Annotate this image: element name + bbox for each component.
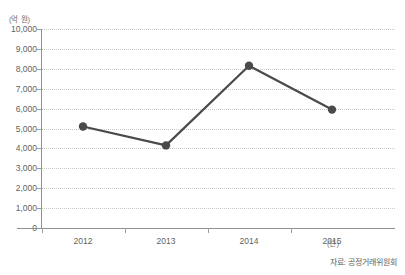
data-point-marker[interactable]: [162, 141, 170, 149]
y-axis-tick-label: 5,000: [0, 124, 37, 134]
x-axis-tick-label: 2013: [126, 236, 206, 246]
x-axis-tick-label: 2012: [43, 236, 123, 246]
series-polyline: [83, 66, 332, 146]
y-axis-tick-label: 2,000: [0, 183, 37, 193]
y-axis-tick-label: 1,000: [0, 203, 37, 213]
y-axis-tick-label: 4,000: [0, 143, 37, 153]
x-axis-tick: [208, 228, 209, 233]
y-axis-tick-label: 7,000: [0, 84, 37, 94]
y-axis-tick-label: 3,000: [0, 163, 37, 173]
series-line: [41, 29, 395, 228]
data-point-marker[interactable]: [328, 105, 336, 113]
x-axis-line: [17, 228, 395, 229]
y-axis-tick-label: 10,000: [0, 24, 37, 34]
data-point-marker[interactable]: [79, 122, 87, 130]
y-axis-tick-label: 9,000: [0, 44, 37, 54]
x-axis-tick-label: 2014: [209, 236, 289, 246]
plot-area: [41, 29, 395, 228]
source-note: 자료: 공정거래위원회: [330, 256, 397, 267]
x-axis-tick: [125, 228, 126, 233]
y-axis-unit-label: (억 원): [9, 13, 30, 24]
x-axis-unit-label: (년): [327, 237, 339, 248]
x-axis-tick: [42, 228, 43, 233]
data-point-marker[interactable]: [245, 62, 253, 70]
y-axis-tick-label: 8,000: [0, 64, 37, 74]
line-chart: (억 원) 01,0002,0003,0004,0005,0006,0007,0…: [0, 0, 405, 275]
y-axis-tick-label: 6,000: [0, 104, 37, 114]
x-axis-tick: [291, 228, 292, 233]
